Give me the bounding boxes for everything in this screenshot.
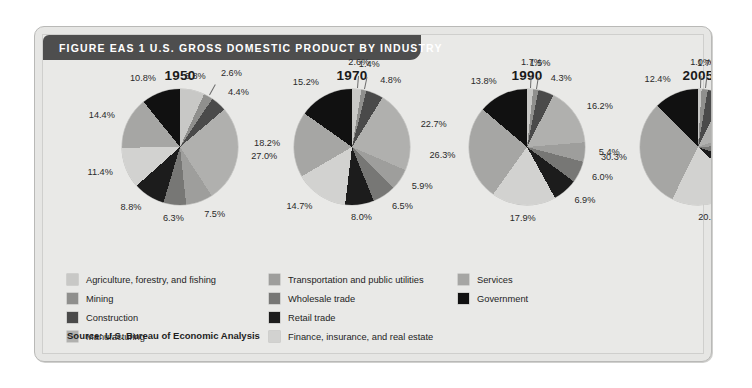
legend-item: Transportation and public utilities: [269, 270, 479, 289]
pie-slice-label: 14.7%: [286, 201, 312, 211]
legend-item: Wholesale trade: [269, 289, 479, 308]
pie-slice-label: 6.3%: [163, 213, 184, 223]
pie-chart-1950: 19506.8%2.6%4.4%27.0%7.5%6.3%8.8%11.4%14…: [95, 68, 265, 258]
pie-label-leader-line: [705, 76, 707, 88]
legend-swatch: [458, 274, 469, 285]
chart-area: 19506.8%2.6%4.4%27.0%7.5%6.3%8.8%11.4%14…: [43, 60, 703, 353]
pie-label-leader-line: [357, 76, 359, 88]
legend-label: Finance, insurance, and real estate: [288, 332, 433, 342]
pie-slice-label: 6.5%: [392, 201, 413, 211]
legend-item: Mining: [67, 289, 267, 308]
legend-item: Construction: [67, 308, 267, 327]
legend-label: Government: [477, 294, 528, 304]
figure-title: FIGURE EAS 1 U.S. GROSS DOMESTIC PRODUCT…: [43, 42, 443, 54]
pie-slice-label: 6.9%: [574, 195, 595, 205]
legend-item: Retail trade: [269, 308, 479, 327]
pie-1990: [469, 89, 585, 205]
pie-title-1990: 1990: [442, 68, 612, 83]
source-note: Source: U.S. Bureau of Economic Analysis: [67, 330, 260, 341]
pie-slice-label: 30.3%: [601, 152, 627, 162]
figure-card-inner: FIGURE EAS 1 U.S. GROSS DOMESTIC PRODUCT…: [42, 34, 704, 354]
pie-slice-label: 7.5%: [204, 209, 225, 219]
pie-slice-label: 5.9%: [412, 181, 433, 191]
pie-label-leader-line: [209, 85, 216, 96]
pie-1970: [294, 89, 410, 205]
legend-column-3: ServicesGovernment: [458, 270, 588, 308]
pie-slice-label: 15.2%: [293, 77, 319, 87]
legend-swatch: [269, 293, 280, 304]
legend-swatch: [67, 312, 78, 323]
pie-wrap-1970: 2.6%1.4%4.8%22.7%5.9%6.5%8.0%14.7%18.2%1…: [267, 83, 437, 243]
pie-slice-label: 6.8%: [185, 71, 206, 81]
legend-label: Construction: [86, 313, 138, 323]
legend-item: Finance, insurance, and real estate: [269, 327, 479, 346]
legend-swatch: [269, 274, 280, 285]
legend-swatch: [269, 331, 280, 342]
legend-label: Wholesale trade: [288, 294, 355, 304]
pie-slice-label: 1.7%: [697, 58, 712, 68]
pie-wrap-1990: 1.7%1.5%4.3%16.2%5.4%6.0%6.9%17.9%26.3%1…: [442, 83, 612, 243]
pie-slice-label: 14.4%: [89, 110, 115, 120]
pie-slice-label: 20.5%: [698, 212, 712, 222]
legend-swatch: [269, 312, 280, 323]
pie-slice-label: 2.6%: [221, 68, 242, 78]
pie-slice-label: 1.4%: [359, 59, 380, 69]
pie-slice-label: 12.4%: [645, 74, 671, 84]
pie-slice-label: 6.0%: [592, 172, 613, 182]
pie-2005: [640, 89, 712, 205]
legend-swatch: [458, 293, 469, 304]
pie-slice-label: 10.8%: [130, 73, 156, 83]
pie-slice-label: 1.5%: [529, 58, 550, 68]
legend-swatch: [67, 274, 78, 285]
pie-label-leader-line: [700, 76, 701, 88]
pie-slice-label: 13.8%: [471, 76, 497, 86]
pie-slice-label: 11.4%: [88, 167, 113, 177]
legend-label: Mining: [86, 294, 113, 304]
pie-slice-label: 16.2%: [587, 101, 613, 111]
legend-column-2: Transportation and public utilitiesWhole…: [269, 270, 479, 346]
pie-slice-label: 4.3%: [551, 73, 572, 83]
legend-label: Transportation and public utilities: [288, 275, 424, 285]
pie-chart-2005: 20051.0%1.7%4.8%12.0%4.8%5.9%6.6%20.5%30…: [613, 68, 712, 258]
legend-swatch: [67, 293, 78, 304]
pie-slice-label: 18.2%: [254, 138, 280, 148]
legend-label: Services: [477, 275, 513, 285]
legend-label: Agriculture, forestry, and fishing: [86, 275, 216, 285]
pie-slice-label: 17.9%: [510, 213, 536, 223]
pie-slice-label: 4.4%: [228, 87, 249, 97]
figure-title-bar: FIGURE EAS 1 U.S. GROSS DOMESTIC PRODUCT…: [43, 35, 421, 60]
pie-1950: [122, 89, 238, 205]
pie-wrap-1950: 6.8%2.6%4.4%27.0%7.5%6.3%8.8%11.4%14.4%1…: [95, 83, 265, 243]
legend-item: Government: [458, 289, 588, 308]
pie-slice-label: 4.8%: [380, 75, 401, 85]
pie-slice-label: 8.8%: [120, 202, 141, 212]
pie-wrap-2005: 1.0%1.7%4.8%12.0%4.8%5.9%6.6%20.5%30.3%1…: [613, 83, 712, 243]
pie-slice-label: 26.3%: [429, 150, 455, 160]
figure-card: FIGURE EAS 1 U.S. GROSS DOMESTIC PRODUCT…: [34, 26, 712, 362]
legend-label: Retail trade: [288, 313, 336, 323]
legend-item: Agriculture, forestry, and fishing: [67, 270, 267, 289]
pie-chart-1970: 19702.6%1.4%4.8%22.7%5.9%6.5%8.0%14.7%18…: [267, 68, 437, 258]
pie-slice-label: 8.0%: [351, 212, 372, 222]
pie-chart-1990: 19901.7%1.5%4.3%16.2%5.4%6.0%6.9%17.9%26…: [442, 68, 612, 258]
legend-item: Services: [458, 270, 588, 289]
pie-label-leader-line: [530, 76, 532, 88]
